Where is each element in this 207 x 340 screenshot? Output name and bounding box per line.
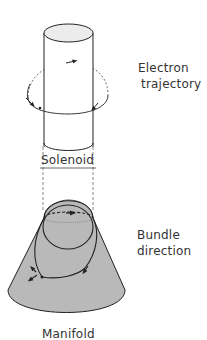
label-bundle-direction: Bundle direction bbox=[137, 227, 191, 259]
label-electron-line1: Electron bbox=[138, 60, 201, 76]
manifold-cone bbox=[8, 200, 125, 313]
label-solenoid: Solenoid bbox=[41, 152, 94, 168]
label-electron-line2: trajectory bbox=[141, 76, 201, 92]
solenoid-cylinder bbox=[26, 24, 108, 151]
diagram-canvas bbox=[0, 0, 207, 340]
label-bundle-line2: direction bbox=[137, 243, 191, 259]
label-electron-trajectory: Electron trajectory bbox=[138, 60, 201, 92]
label-manifold: Manifold bbox=[42, 326, 95, 340]
solenoid-top bbox=[44, 24, 93, 42]
label-bundle-line1: Bundle bbox=[137, 227, 191, 243]
